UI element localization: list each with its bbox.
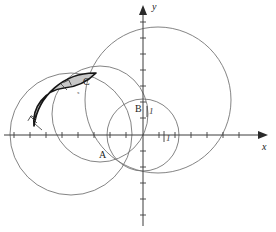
x-axis-arrowhead	[258, 131, 268, 139]
intersection-ticks-group	[30, 84, 67, 130]
label-C: C	[83, 77, 90, 87]
axes-group	[4, 5, 268, 226]
circle-large-right-circle	[85, 27, 231, 173]
label-B: B	[135, 104, 142, 114]
geometry-diagram-canvas: y x A B C 1 1 x	[0, 0, 276, 232]
label-A: A	[99, 150, 106, 160]
tiny-x-mark-near-c: x	[77, 90, 80, 95]
circles-group	[10, 27, 231, 195]
y-axis-arrowhead	[139, 5, 147, 15]
tick-cross-lower	[35, 124, 42, 130]
x-axis-label: x	[262, 142, 266, 152]
unit-label-horizontal: 1	[166, 134, 171, 143]
y-axis-label: y	[152, 2, 156, 12]
figure-svg	[0, 0, 276, 232]
circle-lower-left-circle	[10, 73, 132, 195]
unit-label-vertical: 1	[149, 107, 154, 116]
